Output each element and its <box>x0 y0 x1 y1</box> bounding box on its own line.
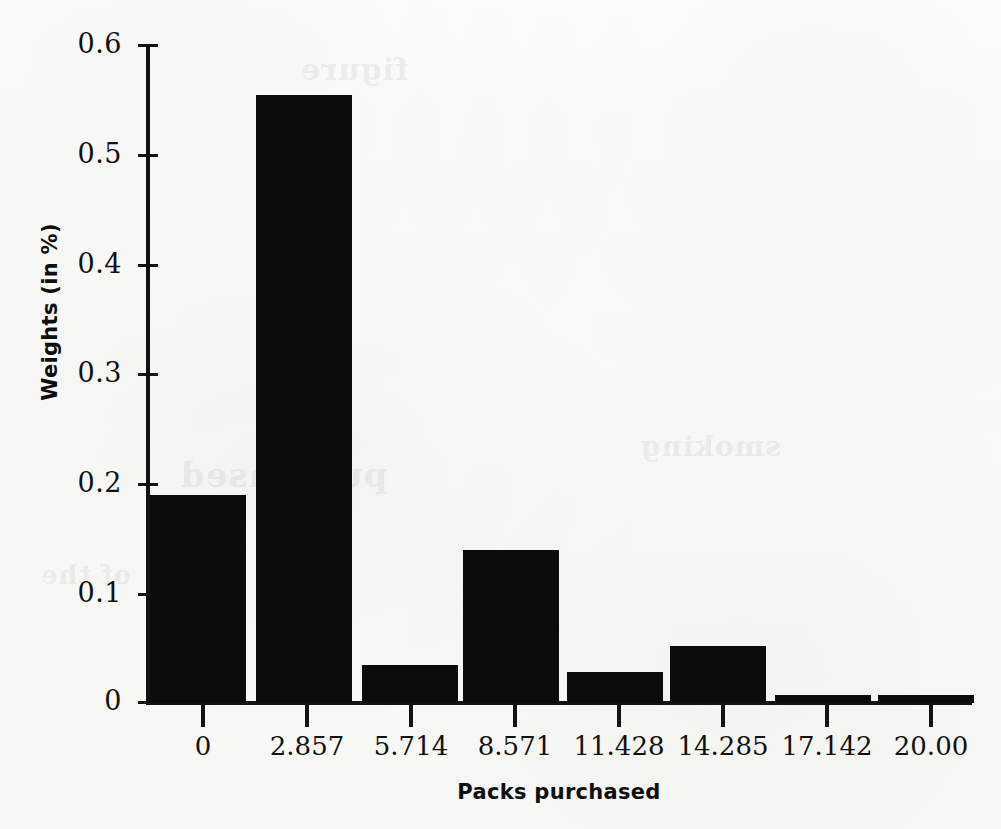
x-tick-label-20.00: 20.00 <box>894 731 968 761</box>
x-tick-17.142 <box>825 703 829 727</box>
x-tick-label-0: 0 <box>195 731 212 761</box>
x-tick-0 <box>201 703 205 727</box>
bar-8.571 <box>463 550 559 703</box>
x-tick-11.428 <box>617 703 621 727</box>
x-tick-8.571 <box>513 703 517 727</box>
y-tick-0.4 <box>138 264 158 267</box>
bar-11.428 <box>567 672 663 703</box>
x-tick-label-17.142: 17.142 <box>782 731 873 761</box>
x-axis-title: Packs purchased <box>146 780 972 804</box>
x-tick-label-2.857: 2.857 <box>270 731 344 761</box>
y-tick-label-0: 0 <box>50 685 122 716</box>
bar-17.142 <box>775 695 871 703</box>
x-tick-label-14.285: 14.285 <box>678 731 769 761</box>
y-axis-title: Weights (in %) <box>38 202 62 422</box>
x-tick-14.285 <box>721 703 725 727</box>
y-tick-0.5 <box>138 154 158 157</box>
y-tick-label-0.1: 0.1 <box>50 577 122 608</box>
bar-14.285 <box>670 646 766 703</box>
bar-5.714 <box>362 665 458 703</box>
x-tick-20.00 <box>929 703 933 727</box>
y-tick-0.3 <box>138 373 158 376</box>
x-tick-label-5.714: 5.714 <box>374 731 448 761</box>
x-tick-5.714 <box>409 703 413 727</box>
y-tick-label-0.2: 0.2 <box>50 467 122 498</box>
chart-page: figure purchased smoking of the 0.6 0.5 … <box>0 0 1001 829</box>
plot-area: 0.6 0.5 0.4 0.3 0.2 0.1 0 0 2.857 5.714 … <box>0 0 1001 829</box>
y-tick-label-0.6: 0.6 <box>50 28 122 59</box>
x-tick-label-8.571: 8.571 <box>478 731 552 761</box>
bar-2.857 <box>256 95 352 703</box>
x-tick-label-11.428: 11.428 <box>574 731 665 761</box>
y-tick-label-0.5: 0.5 <box>50 138 122 169</box>
bar-0 <box>150 495 246 703</box>
y-tick-0.6 <box>138 44 158 47</box>
x-tick-2.857 <box>305 703 309 727</box>
bar-20.00 <box>878 695 974 703</box>
y-tick-0.2 <box>138 483 158 486</box>
